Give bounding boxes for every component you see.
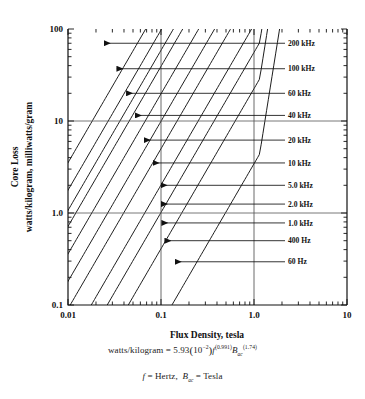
core-loss-chart-figure: 0.010.11.0100.11.010100 200 kHz100 kHz60… xyxy=(0,0,365,399)
x-axis-tick-label: 0.01 xyxy=(60,310,76,320)
frequency-label: 1.0 kHz xyxy=(288,219,314,228)
frequency-label: 20 kHz xyxy=(288,136,312,145)
frequency-curve xyxy=(67,11,241,310)
frequency-curve xyxy=(160,20,281,326)
equation-lhs: watts/kilogram xyxy=(108,345,163,355)
x-axis-tick-label: 0.1 xyxy=(155,310,167,320)
equation-b-subscript: ac xyxy=(238,351,243,357)
frequency-curve xyxy=(67,9,194,227)
equation-b-exponent: (1.74) xyxy=(243,344,257,350)
y-axis-tick-label: 0.1 xyxy=(52,300,64,310)
frequency-label: 5.0 kHz xyxy=(288,181,314,190)
frequency-curve xyxy=(67,11,225,282)
frequency-label: 400 Hz xyxy=(288,236,311,245)
definition-f-symbol: f xyxy=(142,371,145,381)
equation-f-exponent: (0.991) xyxy=(215,344,232,350)
core-loss-equation: watts/kilogram = 5.93(10−2)f(0.991)Bac(1… xyxy=(0,344,365,357)
frequency-label: 200 kHz xyxy=(288,39,315,48)
frequency-curve xyxy=(67,12,183,212)
y-axis-tick-label: 10 xyxy=(54,116,64,126)
frequency-label: 40 kHz xyxy=(288,111,312,120)
frequency-curve xyxy=(67,12,208,255)
definition-b-subscript: ac xyxy=(188,377,193,383)
frequency-label: 2.0 kHz xyxy=(288,200,314,209)
x-axis-tick-label: 1.0 xyxy=(248,310,260,320)
frequency-leader-group xyxy=(104,43,285,262)
y-axis-tick-label: 1.0 xyxy=(52,208,64,218)
chart-canvas: 0.010.11.0100.11.010100 200 kHz100 kHz60… xyxy=(0,0,365,399)
equation-coefficient: 5.93 xyxy=(173,345,189,355)
frequency-curve xyxy=(67,11,156,164)
frequency-label-group: 200 kHz100 kHz60 kHz40 kHz20 kHz10 kHz5.… xyxy=(288,39,315,267)
frequency-curve xyxy=(94,11,264,327)
equation-equals: = xyxy=(166,345,171,355)
definition-b-text: = Tesla xyxy=(196,371,223,381)
frequency-curve-group xyxy=(67,9,281,327)
symbol-definition-line: f = Hertz, Bac = Tesla xyxy=(0,371,365,383)
frequency-label: 60 Hz xyxy=(288,257,307,266)
y-axis-tick-label: 100 xyxy=(50,24,64,34)
frequency-curve xyxy=(116,13,270,326)
y-axis-title-line2: watts/kilogram, milliwatts/gram xyxy=(24,102,34,232)
frequency-label: 100 kHz xyxy=(288,64,315,73)
x-axis-tick-label: 10 xyxy=(343,310,353,320)
definition-f-text: = Hertz, xyxy=(147,371,177,381)
y-axis-title-line1: Core Loss xyxy=(10,146,20,187)
frequency-curve xyxy=(78,16,259,328)
frequency-label: 10 kHz xyxy=(288,159,312,168)
frequency-label: 60 kHz xyxy=(288,89,312,98)
x-axis-title: Flux Density, tesla xyxy=(170,330,244,340)
